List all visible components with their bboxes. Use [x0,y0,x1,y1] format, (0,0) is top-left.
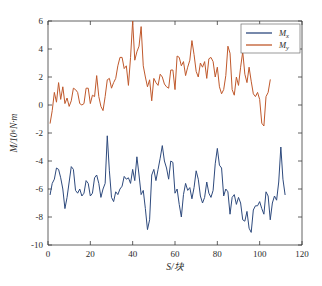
line-chart: 020406080100120 6420-2-4-6-8-10 S/块 M/10… [0,0,322,286]
y-tick-label: -4 [36,156,44,166]
x-axis-title: S/块 [166,262,183,272]
y-tick-label: -6 [36,184,44,194]
x-tick-label: 100 [253,249,267,259]
legend-background [241,24,300,53]
y-tick-label: 0 [39,100,44,110]
x-tick-label: 80 [213,249,223,259]
y-tick-label: 6 [39,16,44,26]
x-tick-label: 20 [86,249,96,259]
x-tick-label: 40 [128,249,138,259]
y-tick-label: -2 [36,128,44,138]
x-tick-label: 0 [46,249,51,259]
x-tick-label: 120 [295,249,309,259]
y-tick-label: -8 [36,212,44,222]
y-axis-title: M/10⁶N·m [9,113,19,153]
chart-figure: 020406080100120 6420-2-4-6-8-10 S/块 M/10… [0,0,322,286]
chart-legend[interactable]: Mx My [241,24,300,53]
x-tick-label: 60 [171,249,181,259]
y-tick-label: -10 [31,240,43,250]
y-tick-label: 2 [39,72,44,82]
y-tick-label: 4 [39,44,44,54]
